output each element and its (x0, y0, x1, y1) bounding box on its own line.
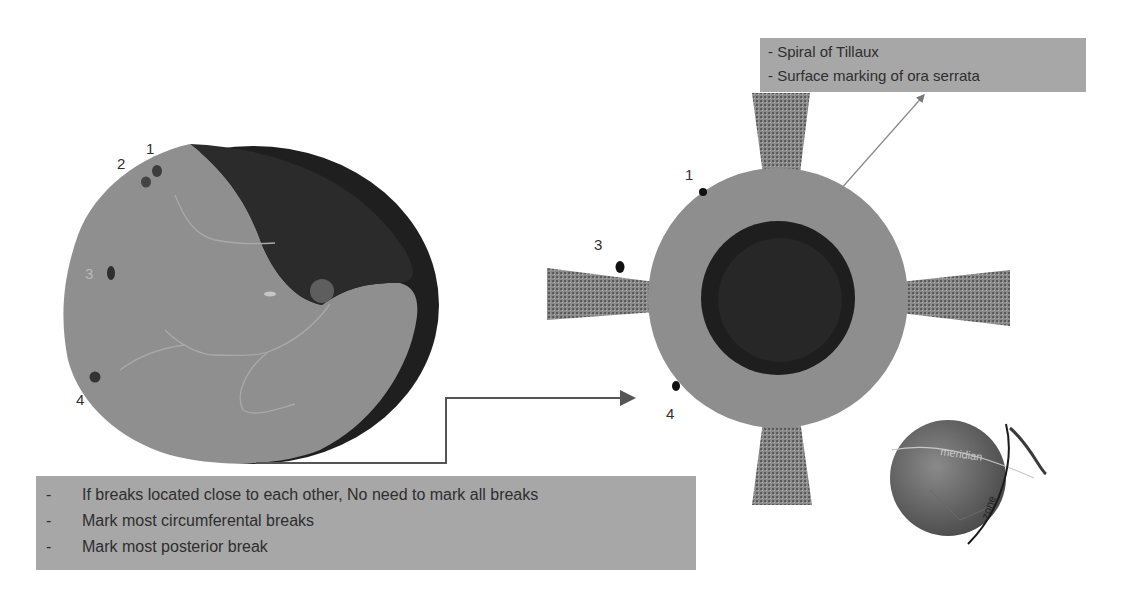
schematic-label-4: 4 (666, 405, 674, 422)
fundus-label-2: 2 (117, 155, 125, 172)
fundus-label-1: 1 (146, 140, 154, 157)
posterior-pole-inner (718, 238, 842, 362)
fundus-drawing (63, 144, 439, 464)
muscle-nasal (547, 268, 655, 320)
bullet-dash: - (46, 534, 82, 560)
rule-item: - Mark most posterior break (46, 534, 686, 560)
break-1-dot (152, 165, 162, 177)
rule-item: - If breaks located close to each other,… (46, 482, 686, 508)
callout-pointer-line (840, 95, 924, 190)
rule-text: Mark most circumferental breaks (82, 508, 314, 534)
fundus-label-3: 3 (85, 265, 93, 282)
muscle-temporal (900, 270, 1010, 326)
fundus-label-4: 4 (76, 391, 84, 408)
callout-line-surface-marking: - Surface marking of ora serrata (768, 64, 1078, 88)
bullet-dash: - (46, 482, 82, 508)
callout-marking-rules: - If breaks located close to each other,… (36, 476, 696, 570)
bullet-dash: - (46, 508, 82, 534)
globe-flap (1010, 428, 1046, 474)
schematic-label-1: 1 (685, 166, 693, 183)
schematic-break-1-dot (699, 188, 707, 196)
fovea-spot (264, 292, 276, 297)
schematic-break-4-dot (672, 381, 680, 391)
break-2-dot (141, 177, 151, 188)
rule-text: If breaks located close to each other, N… (82, 482, 538, 508)
break-3-dot (107, 266, 115, 280)
schematic-break-3-dot (616, 261, 625, 273)
horseshoe-tear (310, 279, 334, 303)
globe-drawing: meridian zone (890, 420, 1046, 544)
break-4-dot (90, 372, 101, 383)
callout-line-spiral: - Spiral of Tillaux (768, 40, 1078, 64)
callout-ora-serrata: - Spiral of Tillaux - Surface marking of… (760, 38, 1086, 92)
rule-item: - Mark most circumferental breaks (46, 508, 686, 534)
rule-text: Mark most posterior break (82, 534, 268, 560)
schematic-label-3: 3 (594, 236, 602, 253)
